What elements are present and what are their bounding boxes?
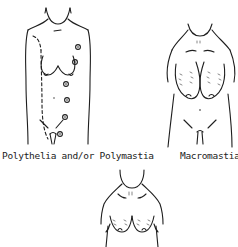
caption-macromastia: Macromastia — [180, 151, 238, 161]
torso-macromastia-drawing — [166, 22, 238, 150]
figure-polythelia — [18, 4, 98, 150]
torso-polythelia-drawing — [18, 4, 98, 150]
caption-polythelia: Polythelia and/or Polymastia — [2, 151, 154, 161]
figure-third-condition — [98, 168, 170, 247]
figure-macromastia — [166, 22, 238, 150]
torso-third-drawing — [98, 168, 170, 247]
